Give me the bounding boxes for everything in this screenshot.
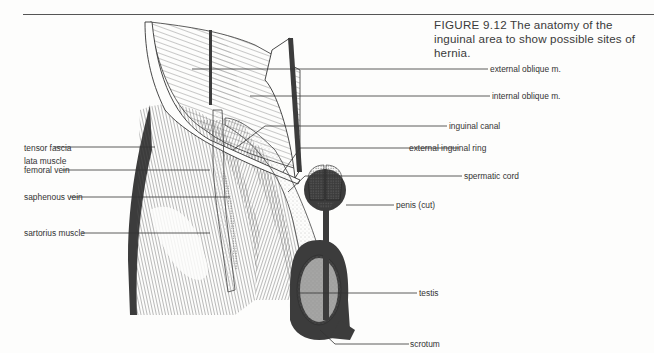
label-external-oblique: external oblique m. [490,64,561,74]
label-scrotum: scrotum [410,339,440,349]
label-inguinal-canal: inguinal canal [449,121,500,131]
label-sartorius-muscle: sartorius muscle [24,228,85,238]
penis-shaft [323,205,329,320]
label-line-1: tensor fascia [24,143,71,153]
label-saphenous-vein: saphenous vein [24,192,83,202]
rectus-band [209,30,212,105]
label-penis: penis (cut) [396,200,435,210]
label-testis: testis [419,288,439,298]
label-internal-oblique: internal oblique m. [492,91,560,101]
inguinal-anatomy-illustration [0,0,654,353]
label-spermatic-cord: spermatic cord [464,171,519,181]
label-external-inguinal-ring: external inguinal ring [409,143,486,153]
label-tensor-fascia-lata: tensor fascia lata muscle [24,143,71,166]
label-femoral-vein: femoral vein [24,165,70,175]
